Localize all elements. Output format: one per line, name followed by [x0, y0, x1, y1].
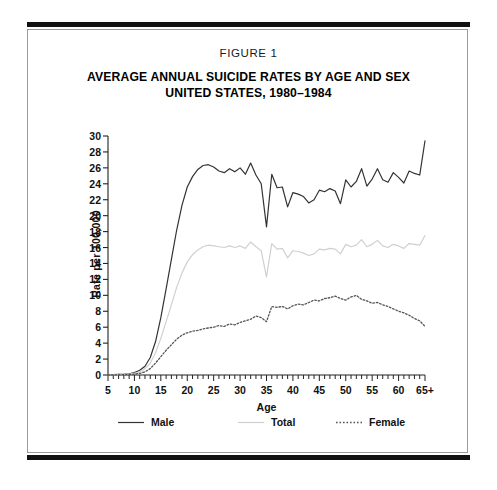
y-tick-label: 20	[89, 210, 101, 222]
top-rule	[27, 22, 470, 27]
legend-item-female[interactable]: Female	[336, 416, 405, 428]
x-tick-label: 20	[181, 384, 193, 396]
series-line-female	[108, 295, 425, 375]
legend-swatch-male	[118, 418, 144, 427]
y-tick-label: 16	[89, 242, 101, 254]
series-line-male	[108, 141, 425, 375]
legend-swatch-total	[238, 418, 264, 427]
y-tick-label: 10	[89, 289, 101, 301]
series-line-total	[108, 236, 425, 375]
x-axis-title: Age	[257, 401, 277, 413]
legend-item-total[interactable]: Total	[238, 416, 295, 428]
bottom-rule	[27, 455, 470, 460]
x-tick-label: 40	[287, 384, 299, 396]
y-tick-label: 30	[89, 130, 101, 142]
legend-swatch-female	[336, 418, 362, 427]
x-tick-label: 5	[105, 384, 111, 396]
y-tick-label: 14	[89, 257, 101, 269]
y-tick-label: 28	[89, 146, 101, 158]
y-tick-label: 24	[89, 178, 101, 190]
figure-number: FIGURE 1	[0, 47, 497, 59]
y-tick-label: 8	[95, 305, 101, 317]
legend-item-male[interactable]: Male	[118, 416, 174, 428]
chart-svg	[108, 136, 425, 375]
x-tick-label: 25	[208, 384, 220, 396]
x-tick-label: 30	[234, 384, 246, 396]
legend-label: Female	[369, 416, 405, 428]
y-tick-label: 12	[89, 273, 101, 285]
x-tick-label: 55	[366, 384, 378, 396]
y-tick-label: 18	[89, 226, 101, 238]
legend-label: Total	[271, 416, 295, 428]
x-tick-label: 60	[393, 384, 405, 396]
x-tick-label: 15	[155, 384, 167, 396]
y-tick-label: 2	[95, 353, 101, 365]
y-tick-label: 0	[95, 369, 101, 381]
figure-title-line-1: AVERAGE ANNUAL SUICIDE RATES BY AGE AND …	[0, 70, 497, 84]
x-tick-label: 50	[340, 384, 352, 396]
x-tick-label: 65+	[416, 384, 434, 396]
y-tick-label: 4	[95, 337, 101, 349]
x-tick-label: 45	[313, 384, 325, 396]
legend-label: Male	[151, 416, 174, 428]
y-tick-label: 22	[89, 194, 101, 206]
y-tick-label: 26	[89, 162, 101, 174]
x-tick-label: 35	[261, 384, 273, 396]
y-tick-label: 6	[95, 321, 101, 333]
chart-plot-area: Rate per 100,000 Age 0246810121416182022…	[108, 136, 425, 375]
chart-legend: MaleTotalFemale	[108, 416, 425, 434]
x-tick-label: 10	[129, 384, 141, 396]
figure-title-line-2: UNITED STATES, 1980–1984	[0, 86, 497, 100]
figure-page: FIGURE 1 AVERAGE ANNUAL SUICIDE RATES BY…	[0, 0, 497, 490]
